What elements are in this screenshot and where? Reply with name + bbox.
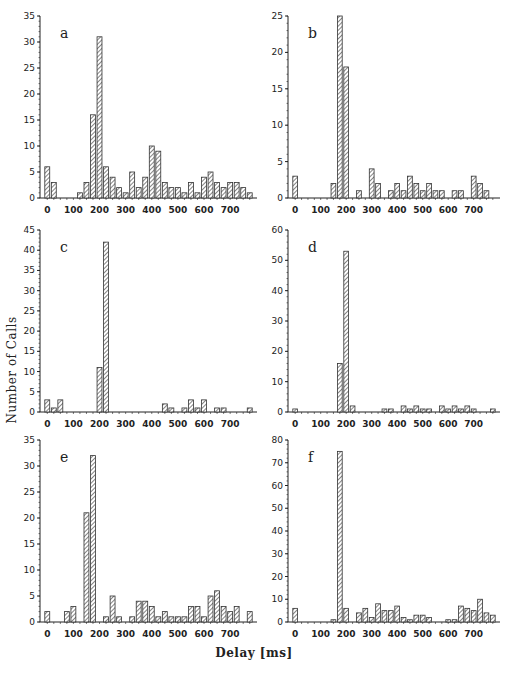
histogram-bar [110,596,115,622]
x-tick-label: 400 [142,629,161,639]
y-tick-label: 35 [24,11,35,21]
x-tick-label: 0 [292,419,298,429]
histogram-bar [395,606,400,622]
histogram-bar [247,612,252,622]
x-tick-label: 500 [413,205,432,215]
x-tick-label: 600 [439,419,458,429]
x-tick-label: 400 [388,205,407,215]
histogram-bar [452,406,457,412]
panel-e: 051015202530350100200300400500600700e [10,432,265,648]
y-tick-label: 60 [272,481,284,491]
histogram-a: 051015202530350100200300400500600700a [10,8,265,220]
x-tick-label: 200 [337,419,356,429]
y-tick-label: 30 [272,549,284,559]
histogram-bar [162,612,167,622]
histogram-bar [401,406,406,412]
histogram-d: 01020304050600100200300400500600700d [258,222,508,434]
histogram-bar [130,172,135,198]
histogram-bar [221,188,226,198]
histogram-bar [143,601,148,622]
histogram-bar [149,146,154,198]
x-tick-label: 600 [195,205,214,215]
x-tick-label: 100 [64,629,83,639]
y-tick-label: 35 [24,265,35,275]
x-tick-label: 400 [142,419,161,429]
y-tick-label: 25 [24,63,35,73]
x-tick-label: 200 [337,629,356,639]
y-tick-label: 20 [24,513,36,523]
histogram-bar [452,191,457,198]
histogram-bar [420,409,425,412]
histogram-bar [97,368,102,412]
histogram-bar [117,188,122,198]
panel-a: 051015202530350100200300400500600700a [10,8,265,224]
x-tick-label: 700 [221,629,240,639]
y-tick-label: 25 [24,306,35,316]
histogram-bar [420,191,425,198]
histogram-bar [376,183,381,198]
histogram-bar [465,406,470,412]
y-tick-label: 25 [24,487,35,497]
histogram-bar [414,406,419,412]
y-axis-label: Number of Calls [2,290,22,450]
x-tick-label: 200 [90,419,109,429]
x-tick-label: 600 [195,629,214,639]
histogram-bar [130,617,135,622]
y-tick-label: 0 [29,617,35,627]
histogram-bar [478,183,483,198]
y-tick-label: 15 [24,539,35,549]
x-tick-label: 500 [168,629,187,639]
histogram-bar [162,182,167,198]
histogram-bar [331,620,336,622]
y-tick-label: 35 [24,435,35,445]
panel-label: e [60,449,68,465]
histogram-bar [433,191,438,198]
histogram-bar [51,408,56,412]
histogram-bar [208,172,213,198]
histogram-bar [337,16,342,198]
histogram-bar [143,177,148,198]
y-tick-label: 20 [272,346,284,356]
histogram-bar [293,409,298,412]
histogram-bar [104,242,109,412]
histogram-bar [169,188,174,198]
histogram-bar [45,612,50,622]
histogram-bar [357,191,362,198]
histogram-bar [215,408,220,412]
y-tick-label: 0 [29,407,35,417]
x-tick-label: 300 [116,629,135,639]
x-tick-label: 100 [311,205,330,215]
x-tick-label: 200 [337,205,356,215]
histogram-f: 010203040506070800100200300400500600700f [258,432,508,644]
histogram-bar [182,193,187,198]
histogram-bar [136,601,141,622]
x-tick-label: 300 [362,629,381,639]
panel-label: b [308,25,317,41]
histogram-bar [169,617,174,622]
histogram-bar [459,191,464,198]
histogram-bar [169,408,174,412]
x-tick-label: 600 [439,205,458,215]
y-tick-label: 10 [24,141,36,151]
y-tick-label: 20 [24,89,36,99]
histogram-bar [215,591,220,622]
y-tick-label: 15 [24,346,35,356]
histogram-bar [182,408,187,412]
panel-d: 01020304050600100200300400500600700d [258,222,508,438]
histogram-bar [446,409,451,412]
y-tick-label: 0 [277,407,283,417]
y-tick-label: 70 [272,458,284,468]
histogram-bar [175,617,180,622]
histogram-bar [459,606,464,622]
histogram-bar [91,115,96,198]
histogram-bar [369,169,374,198]
histogram-bar [408,409,413,412]
y-tick-label: 30 [24,461,36,471]
histogram-bar [401,191,406,198]
histogram-bar [420,615,425,622]
x-tick-label: 0 [292,629,298,639]
histogram-bar [414,183,419,198]
histogram-bar [221,606,226,622]
histogram-bar [465,608,470,622]
panel-c: 0510152025303540450100200300400500600700… [10,222,265,438]
